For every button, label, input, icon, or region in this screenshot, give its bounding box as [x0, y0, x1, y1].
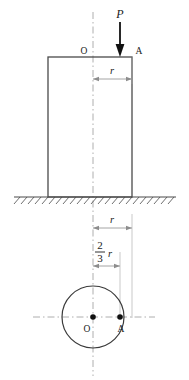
fraction-numerator: 2 [97, 239, 103, 251]
fraction-variable: r [108, 248, 113, 259]
dimension-label-r-upper: r [110, 65, 115, 76]
mechanics-diagram: P O A r [0, 0, 189, 380]
fraction-denominator: 3 [97, 252, 103, 264]
load-arrow-P [116, 22, 125, 57]
point-label-A-elevation: A [136, 46, 143, 56]
figure-canvas: P O A r [0, 0, 189, 380]
point-label-A-plan: A [118, 324, 125, 334]
point-label-O-elevation: O [81, 46, 88, 56]
dimension-label-r-lower: r [110, 214, 115, 225]
fraction-two-thirds-r: 2 3 r [95, 239, 113, 264]
point-marker-A [117, 314, 123, 320]
point-marker-O [90, 314, 96, 320]
ground-support [14, 197, 176, 204]
ground-hatching [14, 197, 174, 204]
load-label-P: P [115, 7, 124, 21]
column-rectangle [48, 57, 132, 197]
point-label-O-plan: O [84, 324, 91, 334]
